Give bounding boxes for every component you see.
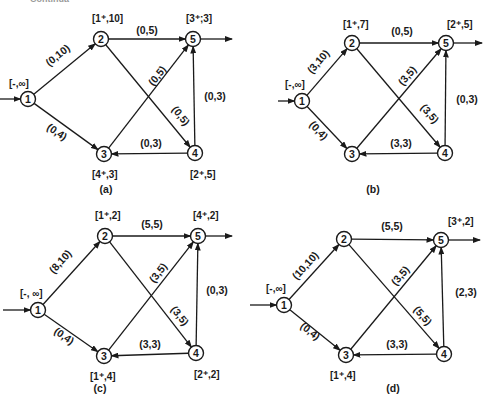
flow-network-diagrams: (0,10)(0,4)(0,5)(0,5)(0,5)(0,3)(0,3)1[-,…	[0, 0, 494, 403]
node-2: 2	[337, 232, 352, 247]
edge-flow-label: (2,3)	[455, 286, 477, 298]
edge-4-3	[353, 354, 436, 355]
node-number: 2	[102, 230, 108, 242]
node-label: [1⁺,10]	[92, 13, 123, 24]
edge-flow-label: (0,5)	[391, 25, 413, 37]
node-number: 5	[195, 230, 201, 242]
edge-1-3	[34, 103, 98, 149]
node-label: [3⁺;3]	[186, 13, 212, 24]
node-label: [-,∞]	[285, 79, 305, 90]
node-label: [1⁺,7]	[343, 19, 369, 30]
node-number: 5	[443, 37, 449, 49]
node-number: 4	[192, 147, 198, 159]
edge-flow-label: (5,5)	[412, 303, 435, 327]
edge-2-5	[351, 239, 433, 240]
node-number: 4	[193, 347, 199, 359]
node-number: 1	[35, 304, 41, 316]
edge-flow-label: (0,3)	[456, 93, 478, 105]
node-number: 2	[98, 33, 104, 45]
edge-flow-label: (0,4)	[45, 121, 70, 143]
edge-flow-label: (3,5)	[169, 303, 192, 327]
node-3: 3[4⁺,3]	[92, 147, 118, 181]
node-label: [2⁺,5]	[447, 19, 473, 30]
node-number: 1	[25, 93, 31, 105]
node-label: [2⁺,2]	[194, 369, 220, 380]
node-number: 3	[349, 148, 355, 160]
node-label: [4⁺,3]	[92, 169, 118, 180]
edge-flow-label: (3,5)	[419, 101, 442, 125]
panel-caption: (b)	[366, 183, 379, 195]
edge-flow-label: (3,3)	[139, 338, 161, 350]
node-5: 5[3⁺;3]	[186, 13, 213, 47]
node-label: [1⁺,4]	[90, 371, 116, 382]
edge-flow-label: (5,5)	[141, 218, 163, 230]
node-5: 5[2⁺,5]	[439, 19, 473, 51]
node-label: [-, ∞]	[20, 288, 43, 299]
edge-4-3	[111, 353, 188, 356]
node-1: 1[-,∞]	[285, 79, 310, 109]
node-number: 4	[441, 348, 447, 360]
node-1: 1[-, ∞]	[20, 288, 46, 318]
panel-caption: (d)	[386, 382, 399, 394]
edge-4-5	[193, 46, 195, 145]
node-number: 3	[101, 350, 107, 362]
node-2: 2[1⁺,7]	[343, 19, 369, 51]
edge-flow-label: (0,3)	[204, 90, 226, 102]
edge-flow-label: (3,3)	[390, 137, 412, 149]
edge-flow-label: (3,5)	[388, 263, 411, 287]
node-number: 5	[438, 234, 444, 246]
edge-flow-label: (0,3)	[206, 284, 228, 296]
node-1: 1[-,∞]	[9, 78, 36, 107]
edge-flow-label: (0,10)	[43, 42, 72, 69]
node-3: 3[1⁺,4]	[90, 349, 116, 383]
node-number: 3	[101, 148, 107, 160]
network-panel-d: (10,10)(0,4)(5,5)(5,5)(3,5)(3,3)(2,3)1[-…	[250, 216, 480, 394]
network-panel-b: (3,10)(0,4)(0,5)(3,5)(3,5)(3,3)(0,3)1[-,…	[278, 19, 482, 195]
node-5: 5[3⁺,2]	[434, 216, 474, 248]
node-label: [1⁺,4]	[330, 370, 356, 381]
edge-2-4	[357, 49, 440, 148]
node-number: 3	[343, 349, 349, 361]
node-number: 5	[190, 33, 196, 45]
edge-4-5	[445, 50, 446, 145]
edge-flow-label: (0,4)	[52, 325, 77, 347]
edge-flow-label: (8,10)	[46, 247, 73, 275]
node-number: 4	[442, 147, 448, 159]
node-label: [1⁺,2]	[95, 210, 121, 221]
edge-2-4	[106, 45, 190, 147]
panel-caption: (c)	[94, 382, 107, 394]
node-label: [-,∞]	[266, 283, 286, 294]
node-5: 5[4⁺,2]	[191, 210, 219, 244]
edge-4-5	[196, 243, 198, 345]
panel-caption: (a)	[100, 183, 113, 195]
edge-flow-label: (5,5)	[381, 220, 403, 232]
node-label: [3⁺,2]	[448, 216, 474, 227]
node-2: 2[1⁺,2]	[95, 210, 121, 244]
edge-4-5	[441, 247, 444, 346]
node-label: [4⁺,2]	[193, 210, 219, 221]
edge-flow-label: (10,10)	[289, 249, 320, 282]
node-4: 4[2⁺,2]	[189, 346, 220, 381]
edge-flow-label: (3,5)	[146, 260, 169, 284]
node-1: 1[-,∞]	[266, 283, 292, 313]
edge-4-3	[111, 153, 187, 154]
node-number: 2	[349, 37, 355, 49]
node-number: 1	[299, 95, 305, 107]
node-label: [-,∞]	[9, 78, 29, 89]
panels-root: (0,10)(0,4)(0,5)(0,5)(0,5)(0,3)(0,3)1[-,…	[0, 13, 482, 394]
edge-flow-label: (3,5)	[395, 63, 418, 87]
edge-flow-label: (0,4)	[307, 118, 331, 142]
edge-4-3	[359, 153, 437, 154]
node-number: 2	[341, 233, 347, 245]
node-2: 2[1⁺,10]	[92, 13, 123, 47]
edge-flow-label: (0,3)	[140, 137, 162, 149]
node-4: 4[2⁺,5]	[188, 146, 216, 181]
node-4: 4	[437, 347, 452, 362]
node-number: 1	[281, 299, 287, 311]
edge-flow-label: (0,4)	[298, 319, 322, 342]
node-3: 3[1⁺,4]	[330, 348, 356, 382]
network-panel-a: (0,10)(0,4)(0,5)(0,5)(0,5)(0,3)(0,3)1[-,…	[0, 13, 232, 195]
node-4: 4	[438, 146, 453, 161]
edge-3-5	[109, 45, 189, 148]
edge-flow-label: (0,5)	[170, 103, 193, 127]
